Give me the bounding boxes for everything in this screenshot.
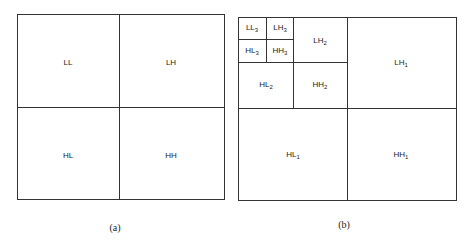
caption-a: (a): [109, 222, 120, 233]
band-label-LL3: LL3: [246, 23, 258, 34]
a-border-top: [17, 14, 225, 15]
b-level2-horizontal: [238, 62, 348, 63]
band-label-HH2: HH2: [313, 80, 328, 91]
band-label-HL1: HL1: [286, 150, 300, 161]
b-level3-vertical: [266, 17, 267, 63]
b-level1-horizontal: [238, 108, 457, 109]
band-label-HH: HH: [165, 151, 177, 160]
band-label-HH1: HH1: [394, 150, 409, 161]
band-label-LH2: LH2: [313, 36, 327, 47]
band-label-HL3: HL3: [245, 46, 259, 57]
band-label-HH3: HH3: [273, 46, 288, 57]
band-label-HL2: HL2: [259, 80, 273, 91]
b-level1-vertical: [347, 17, 348, 201]
a-divider-horizontal: [17, 107, 225, 108]
b-border-right: [456, 17, 457, 201]
band-label-LH1: LH1: [394, 58, 408, 69]
caption-b: (b): [338, 219, 350, 230]
band-label-LH3: LH3: [273, 23, 287, 34]
band-label-LH: LH: [166, 58, 176, 67]
b-border-left: [238, 17, 239, 201]
band-label-LL: LL: [64, 58, 73, 67]
b-level3-horizontal: [238, 39, 294, 40]
band-label-HL: HL: [63, 151, 73, 160]
a-border-bottom: [17, 199, 225, 200]
b-level2-vertical: [293, 17, 294, 109]
